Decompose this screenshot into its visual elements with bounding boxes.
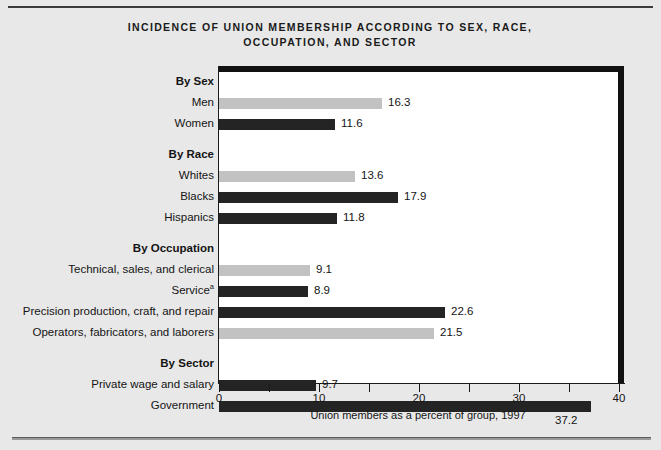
x-axis-ticks xyxy=(0,384,661,392)
x-axis-title: Union members as a percent of group, 199… xyxy=(218,409,618,421)
bar xyxy=(219,171,355,182)
group-header-label: By Sector xyxy=(160,357,214,369)
x-axis-tick xyxy=(469,384,470,392)
bar-value-label: 11.8 xyxy=(343,211,365,223)
bar-row: Blacks17.9 xyxy=(0,187,661,208)
x-axis-tick xyxy=(519,384,520,392)
bar-row-label: Precision production, craft, and repair xyxy=(23,305,214,317)
bar-row-label: Servicea xyxy=(171,284,214,296)
x-axis-tick-label: 20 xyxy=(413,392,426,404)
x-axis-tick xyxy=(219,384,220,392)
bar-row: Whites13.6 xyxy=(0,166,661,187)
group-spacer xyxy=(0,135,661,145)
bar-value-label: 13.6 xyxy=(361,169,383,181)
footnote-marker: a xyxy=(210,282,214,291)
x-axis-tick xyxy=(269,384,270,392)
bar-row-label: Men xyxy=(192,96,214,108)
x-axis-tick xyxy=(369,384,370,392)
group-header-label: By Occupation xyxy=(133,242,214,254)
bar-row-label: Operators, fabricators, and laborers xyxy=(32,326,214,338)
bar xyxy=(219,286,308,297)
x-axis-tick-labels: 010203040 xyxy=(0,392,661,408)
bar-value-label: 9.1 xyxy=(316,263,332,275)
bar-row-label: Women xyxy=(175,117,214,129)
group-header-row: By Race xyxy=(0,145,661,166)
bar-row: Women11.6 xyxy=(0,114,661,135)
bar-value-label: 22.6 xyxy=(451,305,473,317)
bar-row-label: Whites xyxy=(179,169,214,181)
bar-value-label: 16.3 xyxy=(388,96,410,108)
group-header-label: By Race xyxy=(169,148,214,160)
bar xyxy=(219,328,434,339)
bar-value-label: 11.6 xyxy=(341,117,363,129)
bar xyxy=(219,98,382,109)
group-header-label: By Sex xyxy=(176,75,214,87)
x-axis-tick xyxy=(419,384,420,392)
bar-row: Precision production, craft, and repair2… xyxy=(0,302,661,323)
bar-value-label: 21.5 xyxy=(440,326,462,338)
chart-title-line-1: INCIDENCE OF UNION MEMBERSHIP ACCORDING … xyxy=(80,20,580,35)
x-axis-tick-label: 30 xyxy=(513,392,526,404)
bar xyxy=(219,119,335,130)
x-axis-tick-label: 10 xyxy=(313,392,326,404)
bar-rows-container: By SexMen16.3Women11.6By RaceWhites13.6B… xyxy=(0,72,661,417)
bar xyxy=(219,192,398,203)
group-header-row: By Sector xyxy=(0,354,661,375)
x-axis-tick xyxy=(319,384,320,392)
bar-row-label: Technical, sales, and clerical xyxy=(68,263,214,275)
x-axis-tick xyxy=(569,384,570,392)
x-axis-tick-label: 0 xyxy=(216,392,222,404)
bar-row: Hispanics11.8 xyxy=(0,208,661,229)
group-header-row: By Sex xyxy=(0,72,661,93)
bar-row: Technical, sales, and clerical9.1 xyxy=(0,260,661,281)
bar xyxy=(219,265,310,276)
x-axis-tick xyxy=(619,384,620,392)
page-top-rule xyxy=(8,6,653,8)
x-axis-tick-label: 40 xyxy=(613,392,626,404)
bar-row-label: Hispanics xyxy=(164,211,214,223)
bar-value-label: 8.9 xyxy=(314,284,330,296)
bar-row: Servicea8.9 xyxy=(0,281,661,302)
bar-value-label: 17.9 xyxy=(404,190,426,202)
group-header-row: By Occupation xyxy=(0,239,661,260)
group-spacer xyxy=(0,229,661,239)
chart-title: INCIDENCE OF UNION MEMBERSHIP ACCORDING … xyxy=(80,20,580,50)
bar xyxy=(219,213,337,224)
page-bottom-rule xyxy=(12,437,651,440)
chart-title-line-2: OCCUPATION, AND SECTOR xyxy=(80,35,580,50)
bar xyxy=(219,307,445,318)
bar-row: Operators, fabricators, and laborers21.5 xyxy=(0,323,661,344)
bar-row: Men16.3 xyxy=(0,93,661,114)
group-spacer xyxy=(0,344,661,354)
bar-row-label: Blacks xyxy=(180,190,214,202)
